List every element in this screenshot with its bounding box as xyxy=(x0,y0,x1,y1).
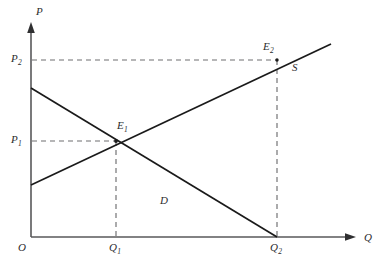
equilibrium-label-e2-sub: 2 xyxy=(270,46,274,55)
price-axis-label: P xyxy=(36,6,43,17)
price-tick-p1-sub: 1 xyxy=(18,139,22,148)
diagram-canvas xyxy=(0,0,384,268)
demand-curve xyxy=(31,88,277,237)
equilibrium-label-e2-base: E xyxy=(263,40,270,52)
equilibrium-point-e1 xyxy=(114,139,118,143)
price-tick-p1: P1 xyxy=(11,134,21,145)
supply-demand-figure: P Q O P2 P1 Q1 Q2 E1 E2 S D xyxy=(0,0,384,268)
price-axis-arrowhead xyxy=(27,22,35,33)
equilibrium-label-e1: E1 xyxy=(117,120,127,131)
equilibrium-label-e1-sub: 1 xyxy=(124,125,128,134)
price-tick-p2: P2 xyxy=(11,53,21,64)
price-tick-p1-base: P xyxy=(11,133,18,145)
supply-curve-label: S xyxy=(292,62,298,73)
quantity-tick-q1-base: Q xyxy=(109,241,117,253)
quantity-axis-label: Q xyxy=(364,232,372,243)
quantity-tick-q2-base: Q xyxy=(270,241,278,253)
quantity-tick-q1: Q1 xyxy=(109,242,121,253)
price-tick-p2-base: P xyxy=(11,52,18,64)
quantity-tick-q1-sub: 1 xyxy=(117,247,121,256)
quantity-axis-arrowhead xyxy=(345,233,356,241)
equilibrium-point-e2 xyxy=(275,58,278,61)
price-tick-p2-sub: 2 xyxy=(18,58,22,67)
quantity-tick-q2: Q2 xyxy=(270,242,282,253)
demand-curve-label: D xyxy=(160,195,168,206)
quantity-tick-q2-sub: 2 xyxy=(278,247,282,256)
origin-label: O xyxy=(18,242,26,253)
equilibrium-label-e1-base: E xyxy=(117,119,124,131)
equilibrium-label-e2: E2 xyxy=(263,41,273,52)
